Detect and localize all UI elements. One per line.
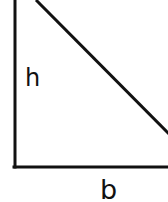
- height-label: h: [25, 64, 40, 92]
- right-triangle-diagram: h b: [0, 0, 168, 202]
- base-label: b: [100, 174, 117, 202]
- hypotenuse-side: [36, 0, 168, 137]
